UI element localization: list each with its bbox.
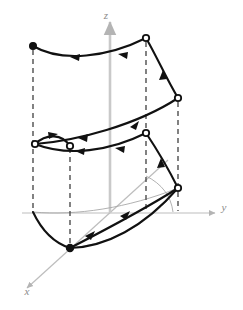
axes-group: z y x — [22, 9, 227, 297]
arrow-top-curve-2 — [118, 52, 128, 59]
vertex-mid-right — [143, 130, 149, 136]
vertex-right-lower — [175, 185, 181, 191]
arrow-mid-curve-1 — [75, 148, 85, 155]
arrow-lens-right — [48, 132, 58, 139]
vertex-mid-left-inner — [67, 143, 73, 149]
arrow-lower-sweep — [120, 211, 130, 220]
arrow-mid-curve-2 — [115, 146, 125, 153]
bottom-left-hook — [33, 212, 70, 248]
vertex-top-left — [30, 43, 37, 50]
x-axis-line — [27, 160, 168, 288]
thin-guides-group — [33, 176, 178, 248]
z-axis-label: z — [103, 9, 109, 21]
vertex-right-upper — [175, 95, 181, 101]
arrow-upper-sweep-1 — [78, 134, 88, 142]
x-axis-label: x — [24, 285, 30, 297]
dashed-lines-group — [33, 42, 178, 245]
diagram-svg: z y x — [0, 0, 243, 310]
vertex-top-right — [143, 35, 149, 41]
figure-canvas: z y x — [0, 0, 243, 310]
top-right-descending-curve — [146, 38, 178, 98]
vertex-mid-left-outer — [32, 141, 38, 147]
top-edge-curve — [33, 38, 146, 56]
y-axis-label: y — [221, 201, 227, 213]
vertex-bottom-front — [66, 244, 73, 251]
